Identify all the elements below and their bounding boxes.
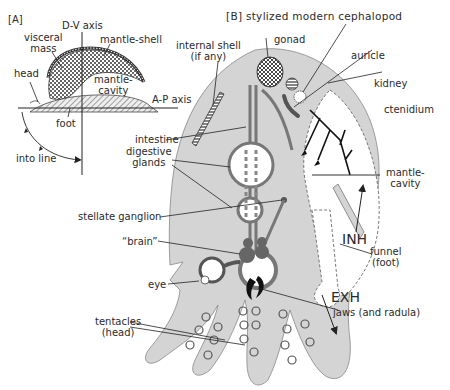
label-kidney: kidney xyxy=(374,78,407,89)
label-gonad: gonad xyxy=(274,34,305,45)
panel-b-figure xyxy=(130,24,382,385)
label-eye: eye xyxy=(148,279,166,290)
label-dv-axis: D-V axis xyxy=(62,20,103,31)
label-visceral-mass: visceral mass xyxy=(24,32,63,54)
label-internal-shell: internal shell (if any) xyxy=(176,40,241,62)
label-auricle: auricle xyxy=(351,50,385,61)
label-tentacles: tentacles (head) xyxy=(95,316,141,338)
label-exh: EXH xyxy=(331,290,360,305)
label-jaws: jaws (and radula) xyxy=(333,307,420,318)
panel-a-tag: [A] xyxy=(8,14,23,25)
label-brain: “brain” xyxy=(122,236,158,247)
label-funnel: funnel (foot) xyxy=(370,246,401,268)
label-mantle-cavity-a: mantle- cavity xyxy=(94,74,133,96)
label-ctenidium: ctenidium xyxy=(384,104,434,115)
label-mantle-shell: mantle-shell xyxy=(100,34,162,45)
label-mantle-cavity-b: mantle- cavity xyxy=(386,167,425,189)
label-stellate-ganglion: stellate ganglion xyxy=(78,211,161,222)
label-foot: foot xyxy=(56,118,76,129)
panel-b-title: [B] stylized modern cephalopod xyxy=(226,11,402,22)
label-ap-axis: A-P axis xyxy=(152,94,191,105)
label-head: head xyxy=(14,68,39,79)
label-into-line: into line xyxy=(16,153,56,164)
label-inh: INH xyxy=(342,232,367,247)
label-digestive-glands: digestive glands xyxy=(126,146,172,168)
label-intestine: intestine xyxy=(135,134,179,145)
